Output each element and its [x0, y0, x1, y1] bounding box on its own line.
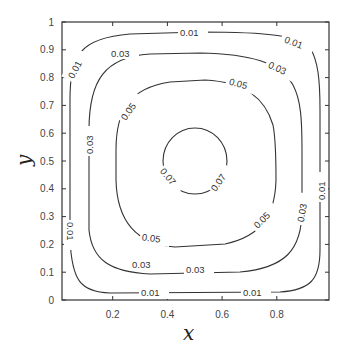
y-tick-label: 0.4: [40, 183, 54, 194]
y-tick-label: 1: [48, 17, 54, 28]
y-tick-label: 0.8: [40, 72, 54, 83]
x-tick-label: 0.4: [160, 309, 174, 320]
y-axis-title: y: [12, 154, 36, 167]
y-tick-label: 0.6: [40, 128, 54, 139]
y-tick-label: 0.9: [40, 44, 54, 55]
contour-label-0.03-left: 0.03: [84, 136, 95, 155]
contour-line-0.03: [89, 53, 302, 274]
contour-label-0.01-right: 0.01: [316, 182, 327, 201]
y-tick-label: 0: [48, 295, 54, 306]
y-tick-label: 0.7: [40, 100, 54, 111]
y-tick-label: 0.3: [40, 211, 54, 222]
y-tick-label: 0.2: [40, 239, 54, 250]
contour-label-0.03-top: 0.03: [111, 48, 130, 59]
contour-chart: 00.10.20.30.40.50.60.70.80.91 0.20.40.60…: [0, 0, 347, 358]
contour-label-0.01-left: 0.01: [65, 222, 76, 241]
x-tick-label: 0.2: [106, 309, 120, 320]
y-tick-label: 0.1: [40, 267, 54, 278]
contour-label-0.03-bottom-left: 0.03: [132, 259, 151, 270]
contour-label-0.03-bottom-right: 0.03: [186, 264, 205, 275]
x-tick-label: 0.8: [270, 309, 284, 320]
contour-label-0.01-bottom-right: 0.01: [243, 287, 262, 298]
x-axis-title: x: [183, 321, 194, 345]
y-tick-label: 0.5: [40, 156, 54, 167]
contour-label-0.01-bottom-left: 0.01: [141, 287, 160, 298]
contour-labels: 0.01 0.01 0.01 0.01 0.01 0.01 0.01 0.03 …: [61, 26, 328, 299]
x-tick-label: 0.6: [215, 309, 229, 320]
contour-label-0.01-top: 0.01: [180, 27, 199, 38]
plot-frame: [62, 22, 329, 300]
